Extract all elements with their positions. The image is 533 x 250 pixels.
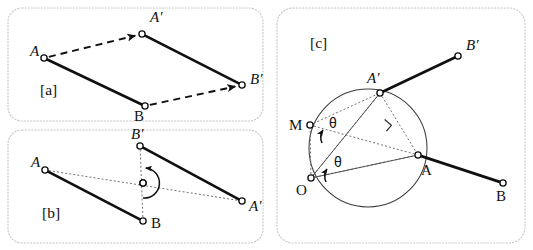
point-label-rotation-about-center-Ap: A′ — [366, 70, 380, 86]
angle-label-theta-2: θ — [334, 154, 342, 170]
point-node-rotation-about-center-A — [415, 152, 421, 158]
panel-tag-point-reflection: [b] — [42, 204, 60, 221]
point-node-rotation-about-center-B — [500, 180, 506, 186]
point-node-translation-A — [41, 55, 47, 61]
point-label-point-reflection-B: B — [151, 215, 161, 231]
figure-canvas: AA′BB′[a]ABA′B′[b]θθOMA′AB′B[c] — [0, 0, 533, 250]
point-node-point-reflection-B — [140, 218, 146, 224]
point-node-rotation-about-center-Ap — [377, 90, 383, 96]
point-node-point-reflection-A — [42, 167, 48, 173]
panel-tag-rotation-about-center: [c] — [310, 34, 327, 51]
point-label-translation-A: A — [29, 43, 40, 59]
point-node-rotation-about-center-Bp — [455, 53, 461, 59]
angle-label-theta-1: θ — [329, 115, 337, 131]
point-node-point-reflection-Bp — [137, 143, 143, 149]
point-label-translation-Ap: A′ — [149, 9, 163, 25]
point-label-translation-Bp: B′ — [250, 71, 263, 87]
point-label-point-reflection-A: A — [30, 154, 41, 170]
point-node-point-reflection-O — [140, 180, 146, 186]
panel-frame-translation — [8, 8, 263, 121]
point-node-translation-Bp — [239, 82, 245, 88]
point-label-rotation-about-center-O: O — [296, 182, 307, 198]
point-label-rotation-about-center-A: A — [421, 162, 432, 178]
point-node-translation-Ap — [139, 31, 145, 37]
panel-translation: AA′BB′[a] — [8, 8, 263, 124]
point-node-point-reflection-Ap — [239, 198, 245, 204]
point-node-rotation-about-center-O — [308, 175, 314, 181]
point-label-rotation-about-center-M: M — [289, 117, 302, 133]
panel-frame-point-reflection — [8, 130, 263, 243]
point-node-rotation-about-center-M — [307, 122, 313, 128]
point-label-translation-B: B — [134, 108, 144, 124]
point-label-point-reflection-Ap: A′ — [248, 198, 262, 214]
point-label-rotation-about-center-Bp: B′ — [466, 37, 479, 53]
point-label-rotation-about-center-B: B — [496, 188, 506, 204]
transformation-figure: AA′BB′[a]ABA′B′[b]θθOMA′AB′B[c] — [0, 0, 533, 250]
panel-point-reflection: ABA′B′[b] — [8, 126, 263, 243]
point-label-point-reflection-Bp: B′ — [131, 126, 144, 142]
panel-tag-translation: [a] — [40, 81, 57, 98]
panel-rotation-about-center: θθOMA′AB′B[c] — [277, 8, 525, 243]
